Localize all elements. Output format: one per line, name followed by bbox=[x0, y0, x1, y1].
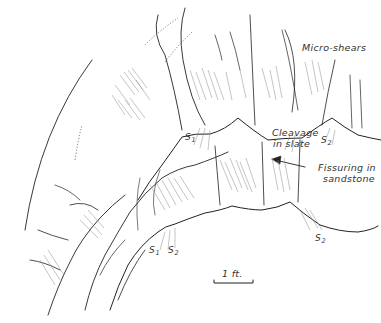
s1-upper-label: S1 bbox=[185, 132, 196, 144]
lower-fold-4 bbox=[137, 178, 140, 230]
shear-wall-2 bbox=[181, 8, 205, 125]
cleavage-label-line1: Cleavage bbox=[272, 127, 319, 138]
fissuring-label-line1: Fissuring in bbox=[318, 162, 376, 173]
shear-wall-7 bbox=[350, 75, 352, 128]
sandstone-wall-2 bbox=[262, 142, 264, 205]
sandstone-wall-1 bbox=[215, 146, 220, 205]
strata-left-1 bbox=[48, 195, 125, 315]
cleavage-label-line2: in slate bbox=[273, 138, 310, 149]
fissuring-label-line2: sandstone bbox=[323, 173, 375, 184]
shear-wall-5 bbox=[322, 60, 335, 125]
shear-wall-1 bbox=[156, 15, 182, 130]
s1-lower-label: S1 bbox=[149, 245, 160, 257]
strata-left-5 bbox=[55, 185, 80, 200]
scale-label: 1 ft. bbox=[222, 268, 243, 279]
fissuring-arrow-head bbox=[272, 156, 281, 164]
shear-wall-10 bbox=[215, 35, 222, 60]
strata-left-2 bbox=[70, 203, 98, 210]
shear-wall-8 bbox=[360, 80, 362, 128]
shear-wall-3 bbox=[250, 15, 255, 125]
lower-fold-1 bbox=[118, 250, 145, 300]
s2-lower-label: S2 bbox=[168, 245, 179, 257]
scale-bar bbox=[214, 280, 253, 283]
fold-diagram: Micro-shears Cleavage in slate Fissuring… bbox=[0, 0, 381, 323]
strata-left-4 bbox=[38, 230, 68, 240]
s2-right-label: S2 bbox=[315, 233, 326, 245]
bedding-middle bbox=[85, 152, 228, 310]
cleavage-hatching bbox=[40, 60, 335, 285]
shear-wall-6 bbox=[285, 30, 295, 112]
shear-wall-9 bbox=[230, 32, 240, 70]
micro-shears-label: Micro-shears bbox=[302, 42, 366, 53]
bedding-upper bbox=[138, 118, 381, 200]
sandstone-wall-3 bbox=[298, 140, 300, 202]
outer-arc bbox=[25, 60, 92, 230]
s2-upper-label: S2 bbox=[321, 135, 332, 147]
